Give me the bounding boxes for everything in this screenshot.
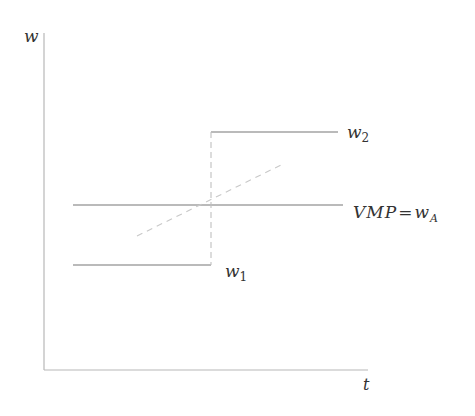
x-axis-label: t (363, 375, 370, 394)
diagonal-dashed-line (137, 164, 283, 236)
w2-label: w2 (347, 122, 369, 145)
y-axis-label: w (24, 26, 39, 46)
w1-label: w1 (225, 261, 247, 284)
vmp-label: VMP=wA (353, 202, 439, 225)
wage-step-diagram: w t w2 w1 VMP=wA (0, 0, 475, 416)
